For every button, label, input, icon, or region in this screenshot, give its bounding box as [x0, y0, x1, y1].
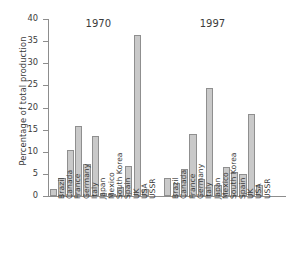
group-title-1997: 1997	[200, 18, 225, 29]
y-tick-mark	[43, 196, 48, 197]
category-label: Italy	[204, 182, 213, 199]
y-tick-label: 35	[0, 36, 38, 44]
y-tick-label: 5	[0, 169, 38, 177]
category-label: USA	[254, 183, 263, 199]
group-title-1970: 1970	[86, 18, 111, 29]
y-tick-label: 0	[0, 191, 38, 199]
category-label: France	[73, 173, 82, 199]
category-label: Canada	[179, 170, 188, 199]
y-tick-label: 30	[0, 58, 38, 66]
y-tick-label: 20	[0, 103, 38, 111]
y-tick-label: 40	[0, 14, 38, 22]
category-label: South Korea	[229, 152, 238, 199]
y-tick-label: 10	[0, 147, 38, 155]
y-tick-label: 15	[0, 125, 38, 133]
bar-chart: Percentage of total production 051015202…	[0, 0, 294, 266]
bar	[134, 35, 141, 197]
category-label: USSR	[263, 178, 272, 199]
y-tick-label: 25	[0, 80, 38, 88]
category-label: USSR	[148, 178, 157, 199]
